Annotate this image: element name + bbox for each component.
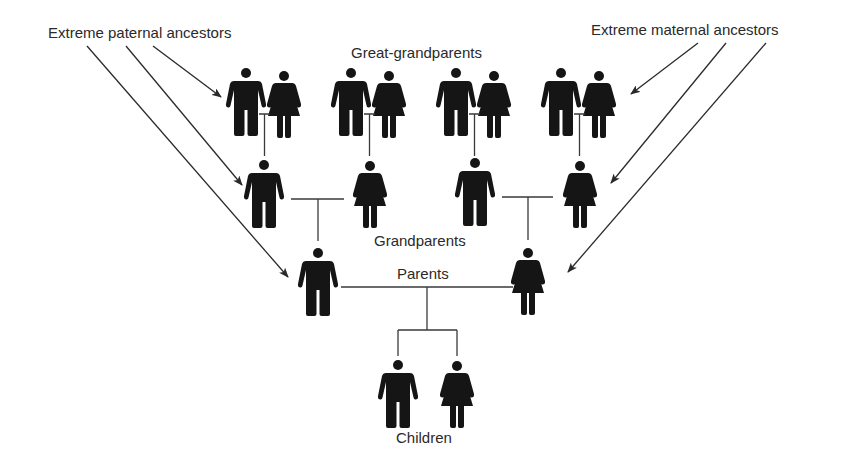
arrow-to-paternal-grandfather — [126, 46, 242, 185]
great-grandparents-label: Great-grandparents — [351, 45, 482, 60]
father-figure — [298, 248, 338, 316]
arrow-to-father — [87, 46, 288, 277]
great-grandfather-figure-2 — [331, 68, 371, 136]
great-grandfather-figure-1 — [226, 68, 266, 136]
arrow-to-maternal-great-grandmother — [631, 43, 698, 94]
extreme-maternal-ancestors-label: Extreme maternal ancestors — [591, 22, 779, 37]
arrow-to-paternal-great-grandfather — [153, 46, 221, 97]
paternal-grandparents-connector — [291, 199, 344, 241]
ggp-couple-1-connector — [259, 114, 270, 156]
daughter-figure — [440, 361, 474, 428]
grandparents-row — [244, 158, 597, 228]
paternal-arrows — [87, 46, 288, 277]
son-figure — [378, 360, 418, 428]
great-grandmother-figure-3 — [477, 71, 511, 138]
children-connector — [398, 330, 457, 356]
great-grandparents-row — [226, 68, 616, 138]
great-grandmother-figure-1 — [267, 71, 301, 138]
maternal-grandparents-connector — [502, 197, 553, 240]
parents-connector — [341, 287, 513, 330]
children-row — [378, 360, 474, 428]
ggp-couple-2-connector — [364, 114, 375, 156]
family-tree-diagram: Extreme paternal ancestors Extreme mater… — [0, 0, 848, 467]
mother-figure — [511, 248, 545, 315]
grandparents-label: Grandparents — [374, 233, 466, 248]
extreme-paternal-ancestors-label: Extreme paternal ancestors — [48, 25, 231, 40]
parents-label: Parents — [397, 266, 449, 281]
children-label: Children — [396, 430, 452, 445]
paternal-grandfather-figure — [244, 160, 284, 228]
great-grandfather-figure-3 — [436, 68, 476, 136]
arrow-to-maternal-grandmother — [611, 43, 726, 183]
ggp-couple-3-connector — [469, 114, 480, 156]
maternal-grandmother-figure — [563, 161, 597, 228]
ggp-couple-4-connector — [574, 114, 585, 156]
maternal-grandfather-figure — [455, 158, 495, 226]
great-grandfather-figure-4 — [541, 68, 581, 136]
great-grandmother-figure-2 — [372, 71, 406, 138]
paternal-grandmother-figure — [353, 161, 387, 228]
parents-row — [298, 248, 545, 316]
great-grandmother-figure-4 — [582, 71, 616, 138]
